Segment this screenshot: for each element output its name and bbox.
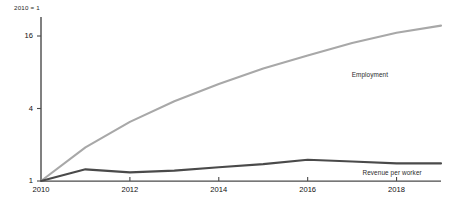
x-axis-tick-label: 2016 xyxy=(284,185,332,194)
x-axis-ticks xyxy=(130,177,397,181)
y-axis-tick-label: 4 xyxy=(7,104,33,113)
x-axis-tick-label: 2018 xyxy=(373,185,421,194)
y-axis-tick-label: 1 xyxy=(7,176,33,185)
x-axis-tick-label: 2014 xyxy=(195,185,243,194)
chart-container: 2010 = 1 1416 20102012201420162018 Emplo… xyxy=(0,0,454,207)
x-axis-tick-label: 2010 xyxy=(17,185,65,194)
series-label-employment: Employment xyxy=(352,71,389,78)
y-axis-tick-label: 16 xyxy=(7,31,33,40)
x-axis-tick-label: 2012 xyxy=(106,185,154,194)
series-label-revenue-per-worker: Revenue per worker xyxy=(362,169,421,176)
plot-area xyxy=(0,0,454,207)
line-employment xyxy=(41,26,441,181)
